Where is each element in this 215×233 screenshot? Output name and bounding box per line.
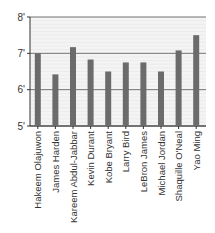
bar [88, 60, 94, 126]
x-tick-label: Kobe Bryant [103, 131, 114, 184]
bar [123, 62, 129, 126]
bar [105, 72, 111, 127]
bar [70, 47, 76, 126]
x-tick-label: Michael Jordan [156, 131, 167, 195]
x-tick-label: Shaquille O'Neal [173, 131, 184, 201]
x-tick-label: Hakeem Olajuwon [32, 131, 43, 209]
x-tick-label: Kareem Abdul-Jabbar [68, 131, 79, 223]
chart-canvas: 5'6'7'8'Hakeem OlajuwonJames HardenKaree… [0, 0, 215, 233]
x-tick-label: Larry Bird [120, 131, 131, 172]
bar [52, 74, 58, 126]
bar [176, 50, 182, 126]
y-tick-label: 8' [18, 12, 26, 23]
bar [35, 53, 41, 126]
y-tick-label: 5' [18, 121, 26, 132]
x-tick-label: James Harden [50, 131, 61, 193]
y-tick-label: 7' [18, 48, 26, 59]
bar [140, 62, 146, 126]
bar [193, 35, 199, 126]
bar [158, 72, 164, 127]
x-tick-label: LeBron James [138, 131, 149, 193]
y-tick-label: 6' [18, 84, 26, 95]
bar-chart: 5'6'7'8'Hakeem OlajuwonJames HardenKaree… [0, 0, 215, 233]
x-tick-label: Yao Ming [191, 131, 202, 170]
x-tick-label: Kevin Durant [85, 131, 96, 186]
